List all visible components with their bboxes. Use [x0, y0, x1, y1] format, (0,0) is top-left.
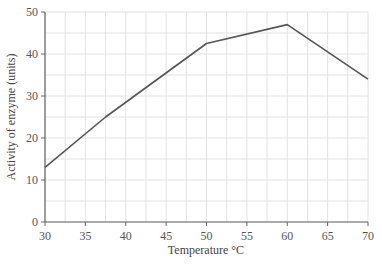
- x-tick-label: 50: [201, 229, 213, 243]
- line-chart: 30354045505560657001020304050 Temperatur…: [0, 0, 382, 264]
- enzyme-activity-chart: 30354045505560657001020304050 Temperatur…: [0, 0, 382, 264]
- y-tick-label: 10: [26, 173, 38, 187]
- y-tick-label: 30: [26, 89, 38, 103]
- x-tick-label: 40: [120, 229, 132, 243]
- tick-labels: 30354045505560657001020304050: [26, 5, 374, 243]
- y-tick-label: 0: [32, 215, 38, 229]
- x-tick-label: 65: [322, 229, 334, 243]
- x-tick-label: 35: [79, 229, 91, 243]
- y-tick-label: 50: [26, 5, 38, 19]
- y-axis-title: Activity of enzyme (units): [4, 54, 18, 181]
- x-tick-label: 30: [39, 229, 51, 243]
- y-tick-label: 40: [26, 47, 38, 61]
- y-tick-label: 20: [26, 131, 38, 145]
- x-tick-label: 70: [362, 229, 374, 243]
- x-tick-label: 45: [160, 229, 172, 243]
- x-tick-label: 60: [281, 229, 293, 243]
- x-axis-title: Temperature °C: [168, 243, 244, 257]
- x-tick-label: 55: [241, 229, 253, 243]
